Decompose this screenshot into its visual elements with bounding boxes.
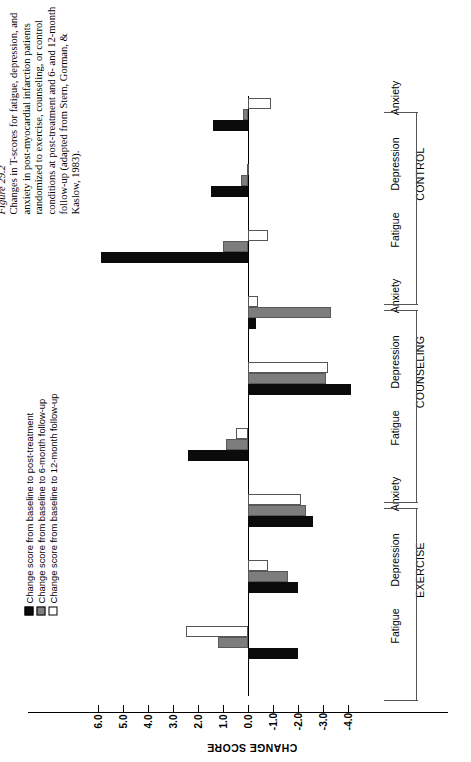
- bar-6-month: [248, 571, 288, 582]
- bar-post-treatment: [248, 516, 313, 527]
- bar-12-month: [236, 428, 249, 439]
- bar-post-treatment: [101, 252, 249, 263]
- bar-12-month: [248, 494, 301, 505]
- bar-post-treatment: [248, 384, 351, 395]
- condition-bracket-tick: [384, 700, 418, 701]
- bar-6-month: [223, 241, 248, 252]
- axis-tick-label: 5.0: [118, 705, 129, 739]
- axis-tick-label: 1.0: [218, 705, 229, 739]
- value-axis-title: CHANGE SCORE: [172, 742, 332, 754]
- bar-6-month: [241, 175, 249, 186]
- bar-post-treatment: [213, 120, 248, 131]
- value-axis-line: [28, 712, 448, 713]
- axis-tick-label: 0.0: [243, 705, 254, 739]
- bar-12-month: [248, 362, 328, 373]
- condition-bracket-tick: [384, 508, 418, 509]
- bar-12-month: [186, 626, 249, 637]
- bar-12-month: [247, 164, 249, 175]
- condition-bracket-counseling: [416, 310, 417, 502]
- axis-tick-label: 2.0: [193, 705, 204, 739]
- axis-tick-label: 6.0: [93, 705, 104, 739]
- zero-baseline: [248, 96, 249, 696]
- bar-12-month: [248, 296, 258, 307]
- axis-tick-label: -1.0: [268, 705, 279, 739]
- axis-tick-label: -2.0: [293, 705, 304, 739]
- axis-tick-label: -4.0: [343, 705, 354, 739]
- bar-post-treatment: [248, 582, 298, 593]
- bar-chart: 6.05.04.03.02.01.00.0-1.0-2.0-3.0-4.0 Fa…: [0, 0, 471, 762]
- axis-tick-label: -3.0: [318, 705, 329, 739]
- bar-post-treatment: [248, 318, 256, 329]
- measure-label-anxiety: Anxiety: [389, 58, 401, 138]
- bar-12-month: [248, 560, 268, 571]
- bar-6-month: [248, 307, 331, 318]
- condition-bracket-tick: [384, 502, 418, 503]
- bar-6-month: [226, 439, 249, 450]
- condition-bracket-tick: [384, 304, 418, 305]
- bar-post-treatment: [211, 186, 249, 197]
- bar-6-month: [248, 373, 326, 384]
- condition-bracket-tick: [384, 310, 418, 311]
- axis-tick-label: 3.0: [168, 705, 179, 739]
- bar-12-month: [248, 230, 268, 241]
- bar-post-treatment: [248, 648, 298, 659]
- bar-12-month: [248, 98, 271, 109]
- bar-6-month: [248, 505, 306, 516]
- condition-bracket-exercise: [416, 508, 417, 700]
- condition-bracket-control: [416, 112, 417, 304]
- bar-6-month: [218, 637, 248, 648]
- bar-post-treatment: [188, 450, 248, 461]
- axis-tick-label: 4.0: [143, 705, 154, 739]
- bar-6-month: [243, 109, 248, 120]
- condition-bracket-tick: [384, 112, 418, 113]
